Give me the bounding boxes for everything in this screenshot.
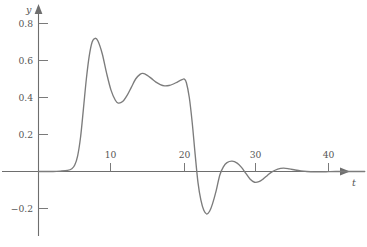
y-axis-label: y xyxy=(25,4,32,15)
y-axis-arrowhead xyxy=(35,4,43,14)
line-chart-canvas: 0.8 0.6 0.4 0.2 −0.2 10 20 30 40 y t xyxy=(0,0,367,247)
y-tick-label-0.2: 0.2 xyxy=(18,129,33,140)
y-axis-tick-labels: 0.8 0.6 0.4 0.2 −0.2 xyxy=(11,18,33,214)
x-axis-tick-labels: 10 20 30 40 xyxy=(105,149,335,160)
x-tick-label-40: 40 xyxy=(323,149,335,160)
y-axis-ticks xyxy=(39,24,49,209)
x-tick-label-20: 20 xyxy=(179,149,191,160)
data-curve-y-of-t xyxy=(39,38,365,214)
x-axis-label: t xyxy=(352,177,356,188)
y-tick-label-0.6: 0.6 xyxy=(18,55,33,66)
y-axis xyxy=(35,4,43,236)
x-tick-label-30: 30 xyxy=(250,149,262,160)
chart-figure: 0.8 0.6 0.4 0.2 −0.2 10 20 30 40 y t xyxy=(0,0,367,247)
y-tick-label-minus-0.2: −0.2 xyxy=(11,203,33,214)
x-tick-label-10: 10 xyxy=(105,149,117,160)
y-tick-label-0.8: 0.8 xyxy=(18,18,33,29)
y-tick-label-0.4: 0.4 xyxy=(18,92,33,103)
